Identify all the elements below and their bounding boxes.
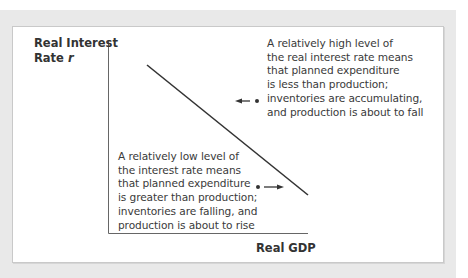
annotation-line: production is about to rise — [118, 219, 257, 233]
low-rate-annotation: A relatively low level of the interest r… — [118, 150, 257, 232]
y-axis-label: Real Interest Rate r — [34, 36, 118, 66]
left-arrow-icon — [235, 99, 250, 104]
annotation-line: the interest rate means — [118, 164, 257, 178]
y-axis-label-line1: Real Interest — [34, 36, 118, 51]
x-axis-label: Real GDP — [256, 241, 316, 255]
high-rate-point — [255, 99, 259, 103]
annotation-line: that planned expenditure — [267, 64, 423, 78]
annotation-line: is greater than production; — [118, 191, 257, 205]
annotation-line: that planned expenditure — [118, 177, 257, 191]
y-axis-label-text: Rate — [34, 51, 68, 65]
annotation-line: inventories are accumulating, — [267, 92, 423, 106]
annotation-line: and production is about to fall — [267, 106, 423, 120]
annotation-line: the real interest rate means — [267, 51, 423, 65]
annotation-line: is less than production; — [267, 78, 423, 92]
right-arrow-icon — [264, 185, 284, 190]
annotation-line: inventories are falling, and — [118, 205, 257, 219]
high-rate-annotation: A relatively high level of the real inte… — [267, 37, 423, 119]
annotation-line: A relatively high level of — [267, 37, 423, 51]
y-axis-label-line2: Rate r — [34, 51, 118, 66]
y-axis-symbol: r — [68, 51, 74, 65]
annotation-line: A relatively low level of — [118, 150, 257, 164]
